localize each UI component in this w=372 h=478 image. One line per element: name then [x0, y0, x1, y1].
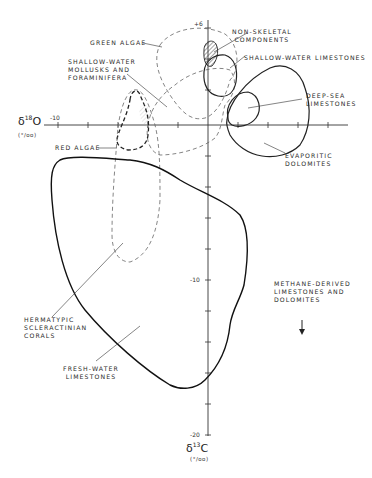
isotope-diagram — [0, 0, 372, 478]
x-axis-unit: (°/oo) — [18, 132, 37, 138]
field-deep-sea — [227, 92, 259, 126]
delta-symbol: δ — [18, 115, 25, 128]
label-methane: METHANE-DERIVED LIMESTONES AND DOLOMITES — [274, 280, 351, 304]
label-deep-sea: DEEP-SEA LIMESTONES — [306, 92, 357, 108]
field-shallow-limestones — [204, 55, 237, 96]
label-green-algae: GREEN ALGAE — [90, 39, 146, 47]
label-shallow-mollusks: SHALLOW-WATER MOLLUSKS AND FORAMINIFERA — [68, 58, 136, 82]
field-fresh-water — [51, 157, 247, 388]
label-red-algae: RED ALGAE — [55, 144, 100, 152]
label-evaporitic: EVAPORITIC DOLOMITES — [285, 152, 333, 168]
delta-symbol: δ — [186, 442, 193, 455]
leader-lines — [52, 33, 302, 361]
element-symbol: C — [200, 442, 208, 455]
field-evaporitic-dolomites — [227, 66, 310, 157]
x-tick-label: -10 — [50, 114, 60, 121]
element-symbol: O — [32, 115, 41, 128]
y-axis-title: δ13C — [186, 441, 208, 455]
label-shallow-limestones: SHALLOW-WATER LIMESTONES — [244, 54, 366, 62]
y-tick-label-top: +6 — [194, 20, 203, 27]
x-axis-title: δ18O — [18, 114, 41, 128]
y-tick-label-mid: -10 — [190, 276, 200, 283]
label-fresh-water: FRESH-WATER LIMESTONES — [63, 365, 119, 381]
field-hermatypic-corals — [112, 90, 160, 262]
label-hermatypic: HERMATYPIC SCLERACTINIAN CORALS — [24, 316, 87, 340]
label-non-skeletal: NON-SKELETAL COMPONENTS — [232, 28, 292, 44]
field-non-skeletal — [204, 41, 218, 66]
x-axis — [44, 122, 348, 128]
arrow-down-icon — [299, 320, 305, 335]
y-axis-unit: (°/oo) — [190, 456, 209, 462]
y-tick-label-bottom: -20 — [190, 431, 200, 438]
field-shallow-mollusks — [147, 68, 234, 155]
